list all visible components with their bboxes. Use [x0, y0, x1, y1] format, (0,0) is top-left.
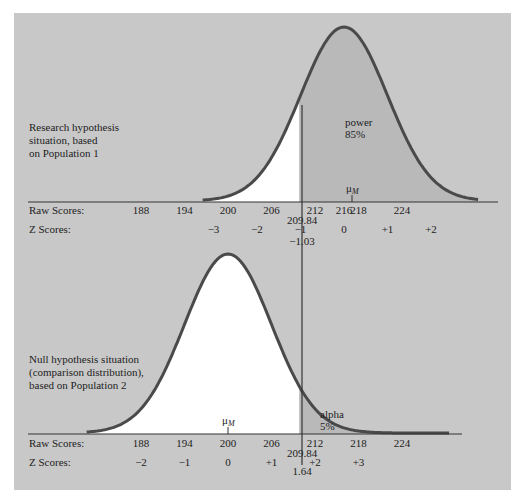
z-tick-label: −1 — [179, 456, 191, 468]
z-tick-label: −2 — [135, 456, 147, 468]
svg-text:Research hypothesis: Research hypothesis — [29, 121, 119, 133]
raw-tick-label: 224 — [394, 204, 411, 216]
bottom-z-tick-labels: −2−10+1+2+3 — [135, 456, 365, 468]
top-unshaded-area — [203, 98, 300, 202]
bottom-cutoff-z-label: 1.64 — [292, 465, 312, 477]
svg-text:Null hypothesis situation: Null hypothesis situation — [29, 353, 140, 365]
research-hypothesis-chart: μM Research hypothesis situation, based … — [28, 27, 498, 247]
bottom-description: Null hypothesis situation (comparison di… — [29, 353, 144, 391]
raw-tick-label: 188 — [133, 204, 150, 216]
null-hypothesis-chart: μM Null hypothesis situation (comparison… — [28, 254, 462, 477]
z-tick-label: 0 — [341, 223, 347, 235]
raw-tick-label: 194 — [176, 437, 193, 449]
top-z-tick-labels: −3−2−10+1+2 — [208, 223, 437, 235]
svg-text:power: power — [345, 116, 373, 128]
bottom-z-axis-label: Z Scores: — [29, 456, 71, 468]
top-power-area — [299, 27, 478, 202]
z-tick-label: +1 — [382, 223, 394, 235]
top-raw-tick-labels: 188194200206212216218224 — [133, 204, 411, 216]
bottom-raw-tick-labels: 188194200206212218224 — [133, 437, 411, 449]
svg-text:(comparison distribution),: (comparison distribution), — [29, 366, 144, 379]
svg-text:situation, based: situation, based — [29, 134, 98, 146]
raw-tick-label: 200 — [220, 204, 237, 216]
power-figure: μM Research hypothesis situation, based … — [0, 0, 524, 501]
z-tick-label: −3 — [208, 223, 220, 235]
raw-tick-label: 224 — [394, 437, 411, 449]
z-tick-label: +2 — [425, 223, 437, 235]
bottom-unshaded-area — [87, 254, 300, 434]
svg-text:5%: 5% — [320, 420, 335, 432]
z-tick-label: +1 — [266, 456, 278, 468]
z-tick-label: +3 — [353, 456, 365, 468]
svg-text:alpha: alpha — [320, 408, 344, 420]
raw-tick-label: 188 — [133, 437, 150, 449]
top-raw-axis-label: Raw Scores: — [29, 204, 84, 216]
top-z-axis-label: Z Scores: — [29, 223, 71, 235]
raw-tick-label: 200 — [220, 437, 237, 449]
svg-text:on Population 1: on Population 1 — [29, 147, 99, 159]
raw-tick-label: 206 — [263, 204, 280, 216]
raw-tick-label: 206 — [263, 437, 280, 449]
raw-tick-label: 218 — [350, 437, 367, 449]
bottom-raw-axis-label: Raw Scores: — [29, 437, 84, 449]
z-tick-label: −2 — [251, 223, 263, 235]
top-description: Research hypothesis situation, based on … — [29, 121, 119, 159]
raw-tick-label: 194 — [176, 204, 193, 216]
svg-text:based on Population 2: based on Population 2 — [29, 379, 126, 391]
raw-tick-label: 218 — [350, 204, 367, 216]
svg-text:85%: 85% — [345, 128, 365, 140]
z-tick-label: 0 — [225, 456, 231, 468]
